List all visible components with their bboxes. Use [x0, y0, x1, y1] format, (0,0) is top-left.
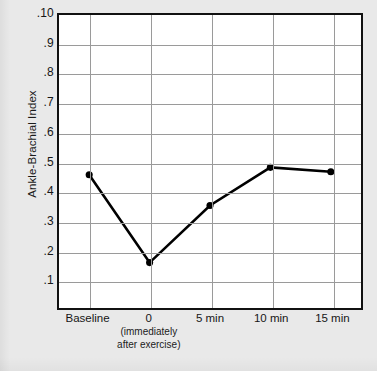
- series-markers: [86, 164, 335, 266]
- x-axis-tick-labels: Baseline0(immediatelyafter exercise)5 mi…: [57, 312, 363, 368]
- data-point-marker: [327, 168, 334, 175]
- line-chart-figure: Ankle-Brachial Index .10.9.8.7.6.5.4.3.2…: [0, 0, 377, 371]
- y-axis-tick-label: .5: [14, 155, 54, 169]
- y-axis-tick-label: .8: [14, 65, 54, 79]
- y-axis-tick-label: .9: [14, 36, 54, 50]
- gridline-horizontal: [59, 253, 361, 254]
- gridline-horizontal: [59, 74, 361, 75]
- gridline-vertical: [90, 15, 91, 308]
- gridline-horizontal: [59, 193, 361, 194]
- data-series-line: [59, 15, 361, 308]
- y-axis-tick-labels: .10.9.8.7.6.5.4.3.2.1: [10, 13, 54, 310]
- y-axis-tick-label: .10: [14, 6, 54, 20]
- x-axis-tick-label-main: 5 min: [196, 312, 224, 324]
- x-axis-tick-label: 15 min: [286, 312, 377, 324]
- gridline-vertical: [334, 15, 335, 308]
- y-axis-tick-label: .2: [14, 244, 54, 258]
- gridline-vertical: [151, 15, 152, 308]
- gridline-vertical: [273, 15, 274, 308]
- gridline-horizontal: [59, 164, 361, 165]
- x-axis-tick-label-main: 0: [146, 312, 152, 324]
- gridline-horizontal: [59, 282, 361, 283]
- y-axis-tick-label: .6: [14, 125, 54, 139]
- x-axis-tick-label-main: 15 min: [315, 312, 350, 324]
- y-axis-tick-label: .1: [14, 273, 54, 287]
- data-point-marker: [146, 259, 153, 266]
- y-axis-tick-label: .3: [14, 214, 54, 228]
- gridline-horizontal: [59, 223, 361, 224]
- series-polyline: [89, 167, 331, 262]
- x-axis-tick-sublabel: (immediately: [103, 326, 195, 339]
- gridline-horizontal: [59, 104, 361, 105]
- gridline-horizontal: [59, 45, 361, 46]
- plot-area: [57, 13, 363, 310]
- y-axis-tick-label: .4: [14, 184, 54, 198]
- gridline-horizontal: [59, 134, 361, 135]
- x-axis-tick-sublabel: after exercise): [103, 339, 195, 352]
- gridline-vertical: [212, 15, 213, 308]
- x-axis-tick-label-main: 10 min: [254, 312, 289, 324]
- y-axis-tick-label: .7: [14, 95, 54, 109]
